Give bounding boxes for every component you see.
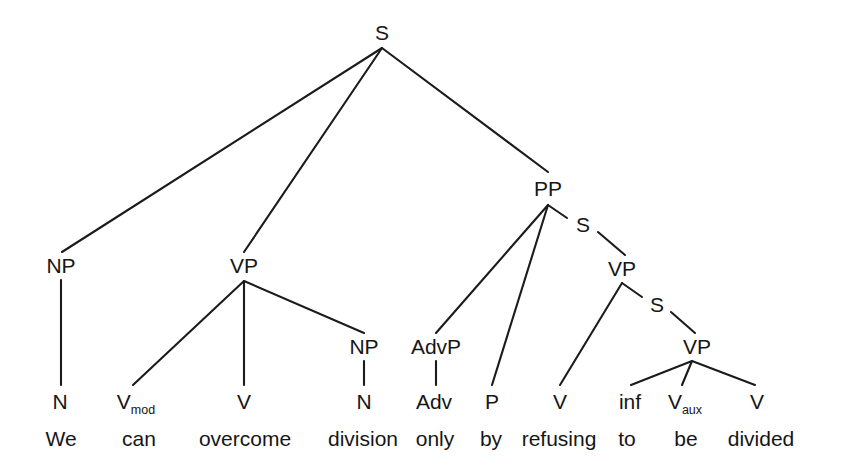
node-s-embedded-1: S xyxy=(576,213,590,236)
word-only: only xyxy=(416,427,455,450)
pos-n-we: N xyxy=(52,390,67,413)
branch-group-root xyxy=(62,48,548,252)
pos-vmod-can: Vmod xyxy=(117,390,155,417)
pos-v-divided: V xyxy=(750,390,764,413)
node-vp-embedded-2: VP xyxy=(683,335,711,358)
branch-s-to-np xyxy=(62,48,382,252)
word-be: be xyxy=(674,427,697,450)
branch-vp1-to-s2 xyxy=(622,283,642,297)
node-advp: AdvP xyxy=(411,335,461,358)
branch-group-vp-main xyxy=(133,281,364,385)
branch-s-to-vp xyxy=(244,48,382,252)
terminal-word-row: Wecanovercomedivisiononlybyrefusingtobed… xyxy=(45,427,794,450)
word-can: can xyxy=(122,427,156,450)
word-division: division xyxy=(328,427,398,450)
word-divided: divided xyxy=(728,427,795,450)
branch-pp-to-p xyxy=(492,205,548,385)
node-s-embedded-2: S xyxy=(650,293,664,316)
branch-group-embedded-1 xyxy=(560,232,642,385)
pos-v-overcome: V xyxy=(237,390,251,413)
node-root-s: S xyxy=(375,21,389,44)
word-to: to xyxy=(618,427,636,450)
node-pp: PP xyxy=(534,177,562,200)
word-refusing: refusing xyxy=(522,427,597,450)
pos-vaux-be: Vaux xyxy=(668,390,703,417)
syntax-tree-canvas: S NP VP PP S VP S VP NP AdvP NVmodVNAdvP… xyxy=(0,0,844,476)
branch-vp-to-np-object xyxy=(244,281,364,333)
pos-n-division: N xyxy=(356,390,371,413)
pos-adv-only: Adv xyxy=(416,390,453,413)
word-by: by xyxy=(480,427,503,450)
node-vp-embedded-1: VP xyxy=(608,257,636,280)
pos-inf-to: inf xyxy=(619,390,641,413)
branch-pp-to-s-embedded xyxy=(548,205,567,218)
branch-group-pp xyxy=(436,205,567,385)
pos-p-by: P xyxy=(485,390,499,413)
syntax-tree-figure: S NP VP PP S VP S VP NP AdvP NVmodVNAdvP… xyxy=(0,0,844,476)
word-overcome: overcome xyxy=(199,427,291,450)
branch-s1-to-vp1 xyxy=(598,232,625,255)
branch-vp-to-vmod xyxy=(133,281,244,385)
branch-s-to-pp xyxy=(382,48,548,172)
pos-v-refusing: V xyxy=(553,390,567,413)
branch-vp1-to-v-refusing xyxy=(560,283,622,385)
node-np-subject: NP xyxy=(46,254,75,277)
pos-tag-row: NVmodVNAdvPVinfVauxV xyxy=(52,390,764,417)
branch-vp2-to-v-divided xyxy=(692,361,755,385)
node-np-object: NP xyxy=(349,335,378,358)
branch-s2-to-vp2 xyxy=(671,312,695,333)
word-we: We xyxy=(45,427,76,450)
branch-pp-to-advp xyxy=(436,205,548,333)
node-vp-main: VP xyxy=(230,254,258,277)
